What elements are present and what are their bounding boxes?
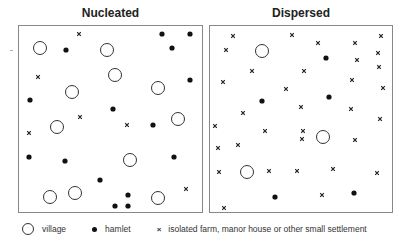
legend-farm-label: isolated farm, manor house or other smal…: [168, 224, 366, 234]
hamlet-dot-icon: [92, 227, 97, 232]
village-icon: [256, 45, 269, 58]
farm-icon: [217, 170, 221, 174]
village-icon: [152, 192, 165, 205]
farm-icon: [302, 69, 306, 73]
legend-village: village: [22, 223, 66, 235]
farm-icon: [213, 124, 217, 128]
farm-cross-icon: ×: [157, 225, 162, 234]
hamlet-icon: [323, 55, 328, 60]
farm-icon: [381, 86, 385, 90]
hamlet-icon: [125, 203, 130, 208]
farm-icon: [349, 107, 353, 111]
hamlet-icon: [27, 97, 32, 102]
farm-icon: [77, 32, 81, 36]
farm-icon: [27, 131, 31, 135]
hamlet-icon: [169, 45, 174, 50]
farm-icon: [353, 138, 357, 142]
village-icon: [124, 154, 137, 167]
farm-icon: [236, 143, 240, 147]
village-icon: [109, 69, 122, 82]
village-icon: [241, 166, 254, 179]
farm-icon: [299, 105, 303, 109]
village-icon: [66, 86, 79, 99]
village-icon: [34, 42, 47, 55]
hamlet-icon: [63, 47, 68, 52]
farm-icon: [316, 41, 320, 45]
hamlet-icon: [112, 203, 117, 208]
farm-icon: [331, 167, 335, 171]
village-icon: [172, 113, 185, 126]
hamlet-icon: [97, 177, 102, 182]
hamlet-icon: [272, 194, 277, 199]
farm-icon: [125, 123, 129, 127]
legend-hamlet: hamlet: [92, 224, 131, 234]
village-icon: [152, 82, 165, 95]
farm-icon: [379, 34, 383, 38]
legend-farm: × isolated farm, manor house or other sm…: [157, 224, 367, 234]
hamlet-icon: [187, 77, 192, 82]
farm-icon: [36, 75, 40, 79]
farm-icon: [375, 171, 379, 175]
farm-icon: [216, 146, 220, 150]
farm-icon: [241, 111, 245, 115]
farm-icon: [284, 87, 288, 91]
farm-icon: [355, 58, 359, 62]
farm-icon: [353, 41, 357, 45]
farm-icon: [78, 115, 82, 119]
hamlet-icon: [150, 122, 155, 127]
farm-icon: [376, 51, 380, 55]
farm-icon: [301, 129, 305, 133]
legend-hamlet-label: hamlet: [105, 224, 131, 234]
farm-icon: [222, 206, 226, 210]
farm-icon: [221, 80, 225, 84]
hamlet-icon: [171, 154, 176, 159]
village-icon: [317, 131, 330, 144]
village-circle-icon: [22, 223, 34, 235]
hamlet-icon: [326, 94, 331, 99]
farm-icon: [263, 129, 267, 133]
legend-village-label: village: [42, 224, 66, 234]
farm-icon: [350, 78, 354, 82]
farm-icon: [184, 187, 188, 191]
hamlet-icon: [159, 31, 164, 36]
farm-icon: [320, 193, 324, 197]
village-icon: [101, 44, 114, 57]
hamlet-icon: [125, 192, 130, 197]
farm-icon: [231, 34, 235, 38]
farm-icon: [290, 33, 294, 37]
hamlet-icon: [187, 31, 192, 36]
hamlet-icon: [26, 154, 31, 159]
farm-icon: [295, 169, 299, 173]
village-icon: [44, 191, 57, 204]
farm-icon: [267, 169, 271, 173]
hamlet-icon: [62, 158, 67, 163]
village-icon: [51, 121, 64, 134]
farm-icon: [377, 65, 381, 69]
hamlet-icon: [110, 106, 115, 111]
hamlet-icon: [351, 190, 356, 195]
farm-icon: [300, 137, 304, 141]
farm-icon: [378, 117, 382, 121]
farm-icon: [224, 48, 228, 52]
hamlet-icon: [259, 98, 264, 103]
legend: village hamlet × isolated farm, manor ho…: [22, 223, 393, 235]
farm-icon: [250, 69, 254, 73]
settlement-pattern-map: [0, 0, 403, 250]
village-icon: [69, 187, 82, 200]
